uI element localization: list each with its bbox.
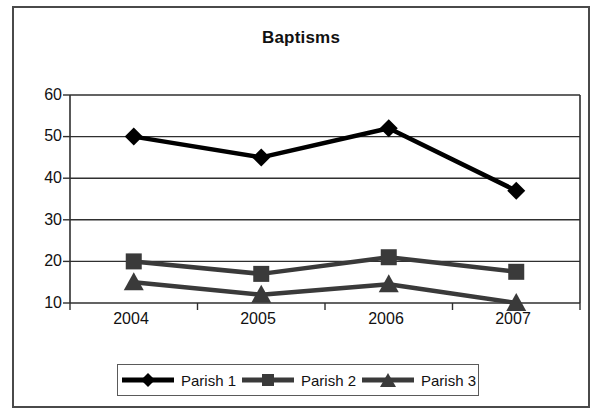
square-marker-icon (240, 371, 296, 389)
y-axis-tick-10: 10 (22, 294, 62, 312)
x-axis-tick-2005: 2005 (213, 310, 303, 328)
chart-legend: Parish 1 Parish 2 Parish 3 (117, 364, 479, 396)
chart-frame: Baptisms (12, 6, 590, 408)
legend-item-parish-2: Parish 2 (240, 371, 356, 389)
legend-label-parish-1: Parish 1 (181, 372, 236, 389)
legend-label-parish-3: Parish 3 (421, 372, 476, 389)
chart-title: Baptisms (14, 28, 588, 48)
y-axis-tick-30: 30 (22, 211, 62, 229)
legend-item-parish-1: Parish 1 (120, 371, 236, 389)
y-axis-tick-40: 40 (22, 169, 62, 187)
x-axis-tick-2007: 2007 (468, 310, 558, 328)
y-axis-tick-50: 50 (22, 127, 62, 145)
y-axis-tick-20: 20 (22, 252, 62, 270)
diamond-marker-icon (120, 371, 176, 389)
legend-item-parish-3: Parish 3 (360, 371, 476, 389)
x-axis-tick-2004: 2004 (86, 310, 176, 328)
y-axis-tick-60: 60 (22, 86, 62, 104)
triangle-marker-icon (360, 371, 416, 389)
x-axis-tick-2006: 2006 (341, 310, 431, 328)
legend-label-parish-2: Parish 2 (301, 372, 356, 389)
